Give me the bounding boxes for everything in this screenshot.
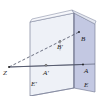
geometry-canvas <box>0 0 97 96</box>
label-a-prime: A' <box>43 70 49 77</box>
label-e-prime: E' <box>31 81 37 88</box>
point-z-marker <box>8 66 10 68</box>
label-b: B <box>81 36 85 43</box>
geometry-figure: Z A' A B' B E' E <box>0 0 97 96</box>
point-a-marker <box>82 64 84 66</box>
label-b-prime: B' <box>57 44 63 51</box>
point-b-marker <box>78 31 80 33</box>
label-z: Z <box>3 70 7 77</box>
point-a-prime-marker <box>45 64 47 66</box>
label-a: A <box>84 68 88 75</box>
label-e: E <box>84 82 88 89</box>
